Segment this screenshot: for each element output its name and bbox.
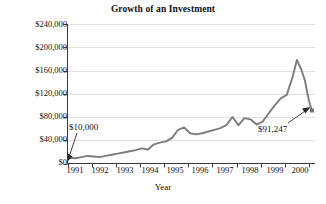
end-point-marker	[310, 108, 314, 112]
gridlines	[68, 25, 316, 141]
investment-line	[69, 60, 311, 158]
chart-canvas	[0, 0, 326, 204]
y-axis-ticks	[64, 25, 68, 165]
arrow-line-start	[69, 133, 77, 157]
axis-lines	[67, 24, 315, 164]
data-series-layer	[69, 60, 313, 158]
investment-growth-chart: Growth of an Investment $240,000 $200,00…	[0, 0, 326, 204]
x-axis-ticks	[69, 164, 310, 168]
annotation-arrows	[68, 107, 311, 162]
arrow-line-end	[288, 111, 305, 123]
